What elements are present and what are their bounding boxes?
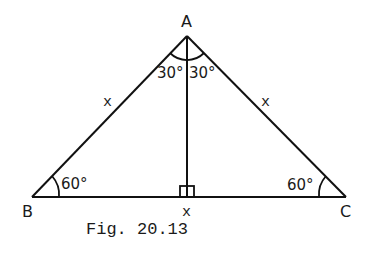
angle-label-c: 60°: [287, 176, 314, 194]
vertex-label-c: C: [340, 202, 351, 221]
side-ac: [187, 36, 346, 197]
angle-label-a-left: 30°: [157, 64, 184, 82]
figure-caption: Fig. 20.13: [86, 220, 188, 239]
side-label-ac: x: [261, 94, 270, 111]
vertex-label-a: A: [181, 12, 192, 31]
side-label-bc-foot: x: [182, 204, 191, 221]
angle-arc-c: [319, 176, 326, 197]
triangle-diagram: A B C 30° 30° 60° 60° x x x Fig. 20.13: [0, 0, 374, 253]
angle-arc-b: [52, 176, 59, 197]
vertex-label-b: B: [22, 202, 33, 221]
angle-label-b: 60°: [61, 175, 88, 193]
angle-label-a-right: 30°: [189, 64, 216, 82]
side-label-ab: x: [103, 94, 112, 111]
side-ab: [32, 36, 187, 197]
